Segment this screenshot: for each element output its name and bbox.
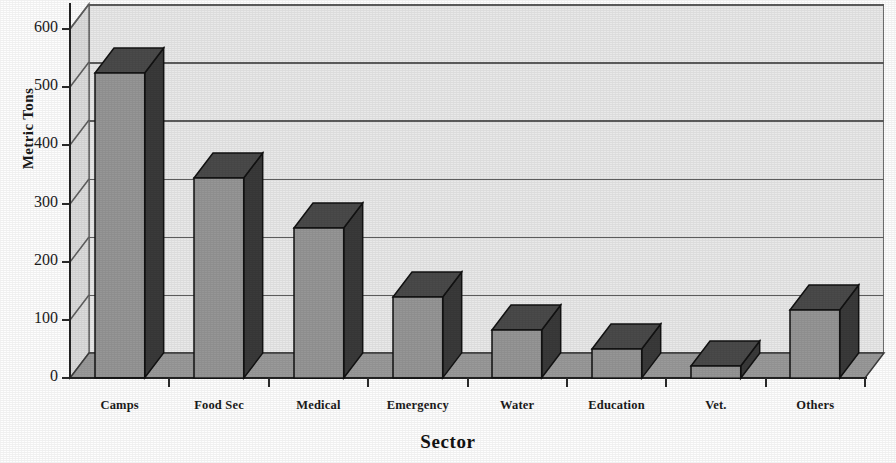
x-tick-label: Others <box>766 398 865 413</box>
x-tick-mark <box>467 378 469 387</box>
bar-3d-faces <box>194 153 266 381</box>
gridline-400 <box>89 120 884 122</box>
gridline-depth-500 <box>70 62 92 90</box>
bar-front-face <box>790 310 840 378</box>
bar-front-face <box>691 366 741 378</box>
bar-front-face <box>492 330 542 378</box>
bar-column[interactable] <box>492 305 563 380</box>
bar-3d-faces <box>691 341 763 381</box>
y-tick-label: 500 <box>8 76 58 94</box>
bar-3d-faces <box>492 305 564 381</box>
bar-column[interactable] <box>393 272 464 380</box>
x-tick-label: Vet. <box>666 398 765 413</box>
x-tick-label: Camps <box>70 398 169 413</box>
bar-3d-faces <box>294 203 366 381</box>
bar-front-face <box>592 349 642 378</box>
bar-column[interactable] <box>592 324 663 380</box>
y-axis-line <box>69 3 71 379</box>
x-tick-mark <box>665 378 667 387</box>
x-tick-mark <box>268 378 270 387</box>
x-tick-label: Food Sec <box>169 398 268 413</box>
bar-3d-faces <box>95 48 167 381</box>
chart-canvas: Metric Tons Sector 0100200300400500600Ca… <box>0 0 896 463</box>
gridline-500 <box>89 62 884 64</box>
bar-3d-faces <box>592 324 664 381</box>
y-tick-label: 200 <box>8 251 58 269</box>
x-tick-mark <box>864 378 866 387</box>
chart-floor <box>70 353 890 386</box>
bar-3d-faces <box>790 285 862 381</box>
x-tick-mark <box>367 378 369 387</box>
bar-column[interactable] <box>691 341 762 380</box>
y-tick-label: 0 <box>8 367 58 385</box>
y-axis-title: Metric Tons <box>20 49 37 209</box>
x-tick-label: Emergency <box>368 398 467 413</box>
gridline-600 <box>89 4 884 6</box>
y-tick-label: 600 <box>8 18 58 36</box>
bar-column[interactable] <box>790 285 861 380</box>
x-tick-label: Water <box>468 398 567 413</box>
bar-column[interactable] <box>194 153 265 380</box>
gridline-depth-200 <box>70 237 92 265</box>
gridline-depth-400 <box>70 120 92 148</box>
x-tick-label: Medical <box>269 398 368 413</box>
x-axis-title: Sector <box>0 431 896 453</box>
x-tick-mark <box>566 378 568 387</box>
x-tick-label: Education <box>567 398 666 413</box>
bar-front-face <box>194 178 244 378</box>
y-tick-label: 100 <box>8 309 58 327</box>
bar-side-face <box>145 48 164 378</box>
bar-3d-faces <box>393 272 465 381</box>
x-tick-mark <box>765 378 767 387</box>
bar-column[interactable] <box>95 48 166 380</box>
y-tick-label: 400 <box>8 134 58 152</box>
bar-side-face <box>244 153 263 378</box>
gridline-depth-600 <box>70 4 92 32</box>
y-tick-label: 300 <box>8 193 58 211</box>
bar-front-face <box>95 73 145 378</box>
bar-side-face <box>343 203 362 378</box>
bar-front-face <box>393 297 443 378</box>
x-tick-mark <box>168 378 170 387</box>
bar-column[interactable] <box>294 203 365 380</box>
gridline-depth-100 <box>70 295 92 323</box>
gridline-depth-300 <box>70 179 92 207</box>
bar-front-face <box>294 228 344 378</box>
